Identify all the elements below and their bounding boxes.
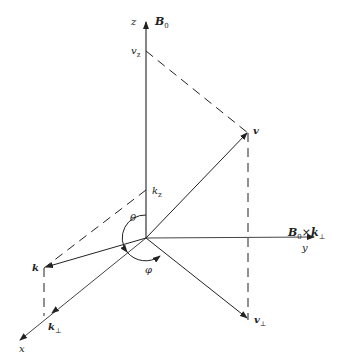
vz-label: vz bbox=[131, 46, 140, 59]
vperp-subscript: ⊥ bbox=[260, 320, 267, 328]
b0-label: B0 bbox=[155, 16, 169, 30]
phi-arc bbox=[127, 252, 160, 261]
k-label: k bbox=[32, 263, 39, 273]
kz-subscript: z bbox=[158, 191, 162, 199]
cross-k-symbol: k bbox=[311, 226, 319, 239]
vperp-label: v⊥ bbox=[254, 315, 266, 328]
vector-diagram: z B0 vz v kz θ B0×k⊥ y k φ v⊥ k⊥ x bbox=[0, 0, 337, 357]
kperp-subscript: ⊥ bbox=[55, 327, 62, 335]
kperp-symbol: k bbox=[48, 321, 55, 332]
theta-label: θ bbox=[130, 213, 136, 223]
diagram-lines bbox=[0, 0, 337, 357]
phi-label: φ bbox=[145, 265, 152, 275]
b0-symbol: B bbox=[155, 15, 164, 28]
y-axis-label: y bbox=[302, 243, 308, 253]
b0-subscript: 0 bbox=[164, 22, 168, 30]
cross-b0-symbol: B bbox=[288, 226, 297, 239]
k-vector bbox=[46, 238, 146, 267]
x-axis bbox=[20, 238, 146, 340]
z-axis-label: z bbox=[131, 17, 136, 27]
v-label: v bbox=[253, 126, 259, 136]
v-to-vz-dashed bbox=[146, 51, 248, 133]
kperp-label: k⊥ bbox=[48, 322, 62, 335]
x-axis-label: x bbox=[19, 344, 25, 354]
vz-subscript: z bbox=[137, 51, 141, 59]
cross-operator: × bbox=[302, 226, 311, 239]
cross-k-subscript: ⊥ bbox=[319, 233, 326, 241]
v-perp-vector bbox=[146, 238, 247, 318]
kz-label: kz bbox=[152, 186, 162, 199]
b0-cross-kperp-label: B0×k⊥ bbox=[288, 227, 325, 241]
